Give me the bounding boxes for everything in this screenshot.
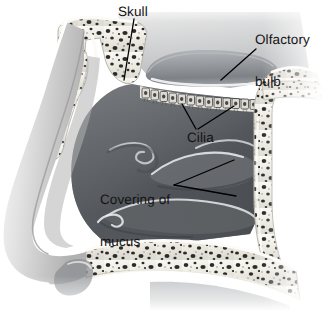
label-olfactory-bulb-line1: Olfactory: [255, 33, 310, 47]
label-cilia: Cilia: [187, 131, 214, 145]
label-olfactory-bulb-line2: bulb: [255, 75, 310, 89]
label-olfactory-bulb: Olfactory bulb: [255, 5, 310, 117]
bottom-edge-fade: [0, 276, 323, 311]
label-mucus-line2: mucus: [100, 235, 170, 249]
top-left-whitespace: [0, 0, 40, 90]
nasal-anatomy-figure: Skull Olfactory bulb Cilia Covering of m…: [0, 0, 323, 311]
label-mucus-line1: Covering of: [100, 193, 170, 207]
label-covering-of-mucus: Covering of mucus: [100, 165, 170, 277]
label-skull: Skull: [118, 5, 148, 19]
